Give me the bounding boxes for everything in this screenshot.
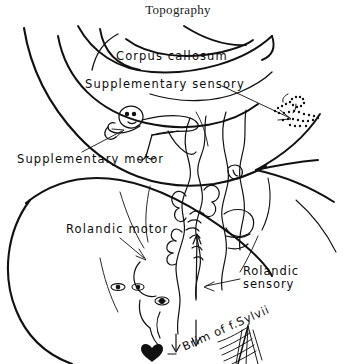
label-supplementary-sensory: Supplementary sensory [85, 78, 245, 91]
rolandic-motor-arrow [120, 238, 146, 260]
label-corpus-callosum: Corpus callosum [116, 50, 228, 63]
label-rolandic-sensory: Rolandic sensory [243, 265, 299, 291]
supplementary-sensory-homunculus [274, 96, 319, 127]
central-digits [172, 185, 219, 231]
right-contour [262, 178, 336, 252]
lower-face-outline [134, 262, 162, 348]
label-rolandic-sensory-line1: Rolandic [243, 264, 299, 278]
label-rolandic-sensory-line2: sensory [243, 277, 294, 291]
label-rolandic-motor: Rolandic motor [66, 223, 168, 236]
label-supplementary-motor: Supplementary motor [17, 153, 164, 166]
supplementary-sensory-arrow [222, 86, 291, 120]
rolandic-sensory-homunculus [221, 110, 253, 290]
rolandic-motor-homunculus [167, 116, 206, 334]
heart-mark [141, 344, 163, 362]
topography-figure: Topography [0, 0, 356, 364]
